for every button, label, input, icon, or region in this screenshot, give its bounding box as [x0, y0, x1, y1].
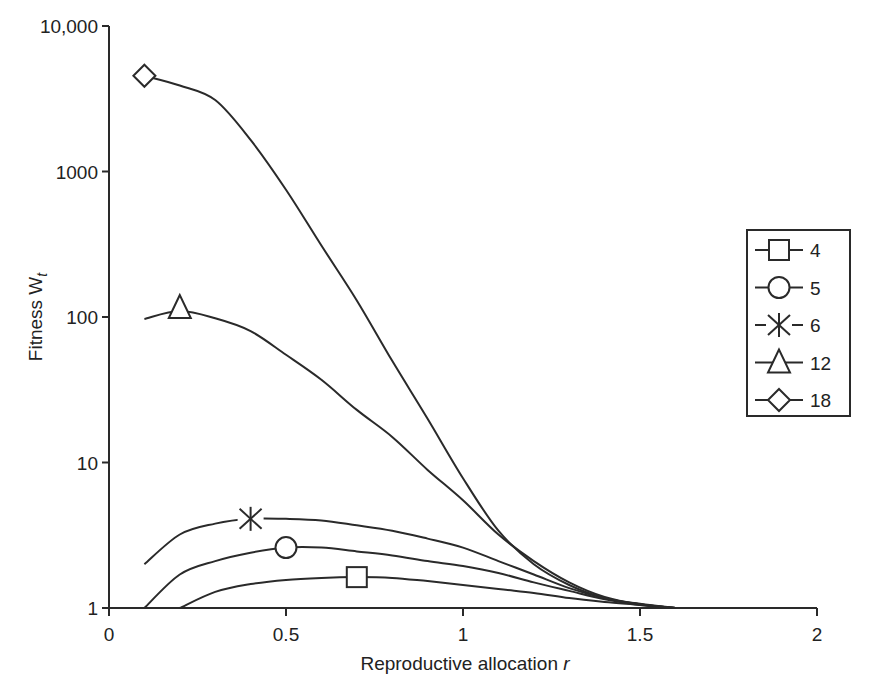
- square-marker-icon: [769, 240, 789, 260]
- curve-series-12: [144, 311, 675, 608]
- circle-marker-icon: [276, 537, 297, 558]
- y-tick-label: 10: [77, 453, 98, 474]
- curve-series-18: [144, 76, 675, 608]
- legend: 4561218: [747, 230, 850, 416]
- y-tick-label: 100: [66, 307, 98, 328]
- x-axis-title: Reproductive allocation r: [360, 653, 570, 674]
- legend-label: 4: [810, 240, 821, 261]
- legend-label: 5: [810, 278, 821, 299]
- circle-marker-icon: [769, 277, 790, 298]
- asterisk-marker-icon: [766, 312, 792, 338]
- diamond-marker-icon: [133, 65, 155, 87]
- y-tick-label: 10,000: [40, 16, 98, 37]
- x-tick-label: 1: [458, 624, 469, 645]
- x-tick-label: 0: [104, 624, 115, 645]
- square-marker-icon: [347, 567, 367, 587]
- y-ticks: 110100100010,000: [40, 16, 109, 619]
- y-tick-label: 1000: [56, 162, 98, 183]
- x-tick-label: 1.5: [627, 624, 653, 645]
- legend-label: 18: [810, 390, 831, 411]
- y-tick-label: 1: [87, 598, 98, 619]
- legend-label: 6: [810, 315, 821, 336]
- x-tick-label: 2: [812, 624, 823, 645]
- triangle-marker-icon: [169, 295, 191, 318]
- curve-series-4: [180, 577, 676, 608]
- x-tick-label: 0.5: [273, 624, 299, 645]
- curves: [144, 76, 675, 608]
- axes: 00.511.52 110100100010,000: [40, 16, 822, 645]
- x-ticks: 00.511.52: [104, 608, 823, 645]
- fitness-chart: 00.511.52 110100100010,000 Reproductive …: [0, 0, 869, 691]
- markers: [133, 65, 366, 587]
- legend-label: 12: [810, 353, 831, 374]
- asterisk-marker-icon: [238, 506, 264, 532]
- legend-box: [747, 230, 850, 416]
- y-axis-title: Fitness Wt: [25, 272, 50, 361]
- curve-series-5: [144, 547, 675, 608]
